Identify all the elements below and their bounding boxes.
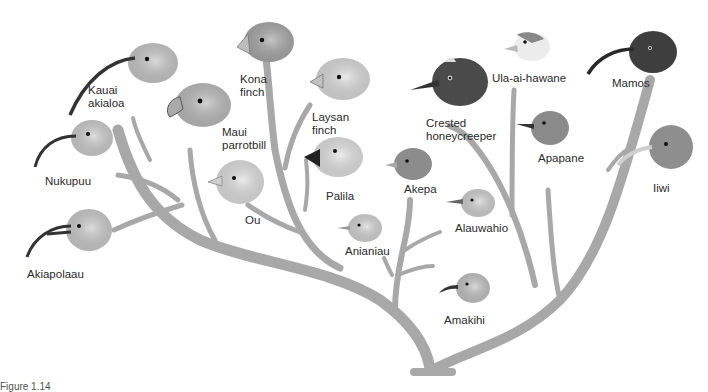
label-apapane: Apapane: [538, 152, 584, 165]
bird-palila-icon: [304, 137, 363, 177]
bird-ula-ai-hawane-icon: [504, 32, 550, 61]
label-ou: Ou: [245, 214, 260, 227]
branch-amakihi: [398, 266, 433, 275]
bird-anianiau-icon: [337, 214, 382, 242]
label-kona-finch: Kona finch: [240, 73, 267, 99]
bird-akepa-icon: [385, 148, 432, 180]
figure-caption: Figure 1.14: [0, 381, 51, 392]
bird-laysan-finch-icon: [310, 58, 370, 100]
label-anianiau: Anianiau: [345, 245, 390, 258]
bird-crested-honeycreeper-icon: [410, 58, 488, 106]
branch-center-fork: [395, 200, 410, 310]
bird-maui-parrotbill-icon: [167, 83, 231, 127]
label-nukupuu: Nukupuu: [45, 175, 91, 188]
bird-alauwahio-icon: [446, 189, 495, 217]
branch-alauwahio: [405, 232, 440, 250]
label-amakihi: Amakihi: [444, 314, 485, 327]
bird-mamos-icon: [588, 31, 677, 74]
bird-nukupuu-icon: [35, 120, 113, 167]
branch-kauai-akialoa: [133, 118, 150, 160]
label-alauwahio: Alauwahio: [455, 222, 508, 235]
label-akiapolaau: Akiapolaau: [27, 268, 84, 281]
label-crested-honeycreeper: Crested honeycreeper: [426, 117, 496, 143]
label-iiwi: Iiwi: [653, 182, 670, 195]
label-mamos: Mamos: [612, 77, 650, 90]
branch-ula-ai-hawane: [512, 90, 514, 215]
label-maui-parrotbill: Maui parrotbill: [222, 126, 266, 152]
label-palila: Palila: [326, 190, 354, 203]
branch-apapane: [548, 190, 560, 300]
label-ula-ai-hawane: Ula-ai-hawane: [492, 72, 566, 85]
label-laysan-finch: Laysan finch: [312, 111, 349, 137]
bird-amakihi-icon: [439, 273, 490, 303]
label-akepa: Akepa: [404, 183, 437, 196]
branch-palila: [305, 160, 307, 210]
bird-ou-icon: [208, 160, 264, 204]
label-kauai-akialoa: Kauai akialoa: [88, 84, 124, 110]
branch-anianiau: [384, 258, 392, 275]
branch-maui-ou: [190, 150, 215, 240]
bird-kona-finch-icon: [237, 22, 294, 62]
bird-akiapolaau-icon: [27, 209, 112, 257]
bird-apapane-icon: [516, 111, 569, 145]
